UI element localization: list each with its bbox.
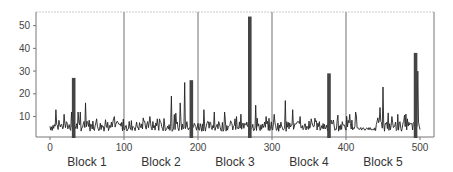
x-axis: 0100200300400500 (47, 137, 429, 153)
y-axis: 1020304050 (19, 20, 36, 122)
x-tick-label: 200 (190, 142, 207, 153)
block-label: Block 3 (215, 155, 255, 169)
block-label: Block 1 (67, 155, 107, 169)
signal-line (50, 71, 420, 131)
block-label: Block 5 (363, 155, 403, 169)
highlight-bar (190, 80, 194, 138)
signal-series (50, 71, 420, 131)
highlight-bar (414, 53, 418, 138)
x-tick-label: 400 (338, 142, 355, 153)
x-tick-label: 100 (116, 142, 133, 153)
block-time-series-chart: 1020304050 0100200300400500 Block 1Block… (0, 0, 453, 172)
block-dividers (124, 12, 346, 137)
block-label: Block 2 (141, 155, 181, 169)
plot-frame (36, 12, 434, 137)
highlight-bar (72, 78, 76, 138)
x-tick-label: 0 (47, 142, 53, 153)
highlight-bar (327, 73, 331, 138)
y-tick-label: 50 (19, 20, 31, 31)
highlight-bar (248, 17, 252, 138)
block-label: Block 4 (289, 155, 329, 169)
x-tick-label: 500 (412, 142, 429, 153)
block-labels: Block 1Block 2Block 3Block 4Block 5 (67, 155, 403, 169)
y-tick-label: 20 (19, 88, 31, 99)
y-tick-label: 30 (19, 66, 31, 77)
y-tick-label: 40 (19, 43, 31, 54)
y-tick-label: 10 (19, 111, 31, 122)
x-tick-label: 300 (264, 142, 281, 153)
